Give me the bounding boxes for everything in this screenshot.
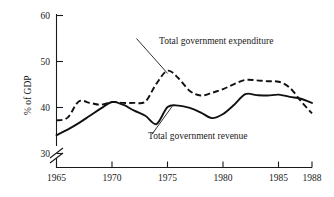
- annotation-label-revenue: Total government revenue: [148, 131, 248, 141]
- x-axis-ticks: [57, 162, 313, 168]
- x-tick-label-1965: 1965: [47, 173, 66, 183]
- line-chart: 60 50 40 30 % of GDP 1965 1970 1975 1980…: [0, 0, 334, 197]
- y-axis-title: % of GDP: [23, 75, 33, 115]
- x-tick-label-1975: 1975: [158, 173, 177, 183]
- y-tick-label-60: 60: [41, 11, 51, 21]
- series-line-total-government-revenue: [57, 94, 313, 136]
- x-tick-label-1980: 1980: [214, 173, 233, 183]
- chart-container: 60 50 40 30 % of GDP 1965 1970 1975 1980…: [0, 0, 334, 197]
- x-tick-label-1985: 1985: [269, 173, 288, 183]
- y-tick-label-50: 50: [41, 57, 51, 67]
- y-tick-label-40: 40: [41, 103, 51, 113]
- annotation-label-expenditure: Total government expenditure: [159, 36, 273, 46]
- x-tick-label-1988: 1988: [303, 173, 322, 183]
- x-tick-label-1970: 1970: [103, 173, 122, 183]
- y-tick-label-30: 30: [41, 149, 51, 159]
